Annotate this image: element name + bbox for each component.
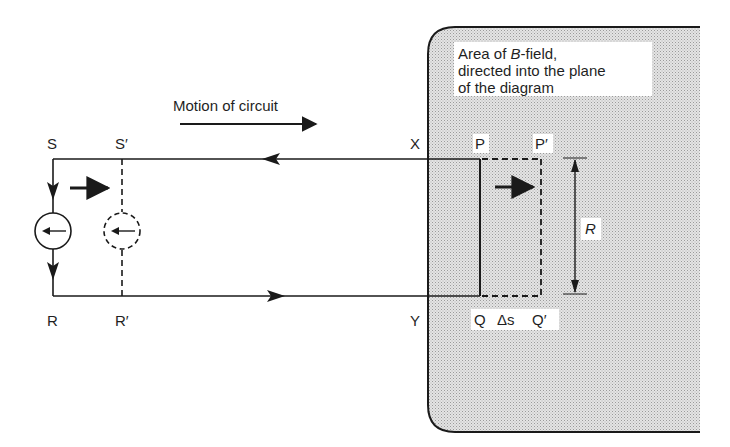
label-P-prime: P′ — [535, 135, 548, 152]
rod-length-label: R — [585, 220, 596, 237]
label-P: P — [475, 135, 485, 152]
displacement-label: Δs — [497, 311, 515, 328]
circuit-diagram: Area of B-field, directed into the plane… — [0, 0, 730, 447]
label-X: X — [410, 135, 420, 152]
label-S: S — [47, 135, 57, 152]
label-S-prime: S′ — [115, 135, 128, 152]
motion-label: Motion of circuit — [173, 97, 279, 114]
label-R: R — [47, 312, 58, 329]
label-Q-prime: Q′ — [532, 311, 547, 328]
displaced-source-icon — [104, 159, 140, 296]
label-Q: Q — [474, 311, 486, 328]
caption-line-2: directed into the plane — [458, 62, 606, 79]
caption-line-3: of the diagram — [458, 79, 554, 96]
emf-source-icon — [35, 213, 71, 249]
label-Y: Y — [410, 312, 420, 329]
label-R-prime: R′ — [115, 312, 129, 329]
field-caption: Area of B-field, directed into the plane… — [454, 42, 652, 96]
caption-line-1: Area of B-field, — [458, 45, 557, 62]
